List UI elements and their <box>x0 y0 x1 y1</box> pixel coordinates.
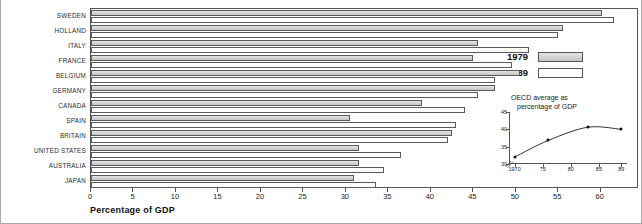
x-tick-label: 30 <box>341 192 349 201</box>
bar-holland-1979 <box>91 25 563 31</box>
bar-germany-1979 <box>91 85 495 91</box>
category-label-canada: CANADA <box>58 102 86 109</box>
bar-sweden-1979 <box>91 10 602 16</box>
bar-holland-1989 <box>91 32 558 38</box>
inset-y-tick-label: 40 <box>501 126 507 132</box>
x-tick-label: 35 <box>383 192 391 201</box>
category-label-belgium: BELGIUM <box>56 72 86 79</box>
bar-spain-1979 <box>91 115 350 121</box>
bar-france-1989 <box>91 62 512 68</box>
bar-australia-1979 <box>91 160 359 166</box>
inset-x-tick-label: 75 <box>540 166 546 172</box>
category-label-holland: HOLLAND <box>55 27 87 34</box>
bar-belgium-1989 <box>91 77 495 83</box>
inset-title-line1: OECD average as <box>511 94 568 101</box>
x-tick-label: 5 <box>130 192 134 201</box>
x-axis-title: Percentage of GDP <box>90 205 175 215</box>
inset-y-tick-label: 45 <box>501 109 507 115</box>
inset-title: OECD average as percentage of GDP <box>511 94 577 111</box>
category-label-britain: BRITAIN <box>60 132 86 139</box>
inset-x-tick-label: 1970 <box>508 166 520 172</box>
bar-sweden-1989 <box>91 17 614 23</box>
inset-y-tick-label: 30 <box>501 161 507 167</box>
inset-x-tick-label: 89 <box>618 166 624 172</box>
inset-line-path <box>509 112 627 164</box>
legend: 1979 1989 <box>507 50 583 82</box>
inset-data-point <box>586 126 589 129</box>
bar-italy-1979 <box>91 40 478 46</box>
bar-france-1979 <box>91 55 473 61</box>
bar-australia-1989 <box>91 167 384 173</box>
bar-germany-1989 <box>91 92 478 98</box>
bar-spain-1989 <box>91 122 456 128</box>
chart-figure: SWEDENHOLLANDITALYFRANCEBELGIUMGERMANYCA… <box>0 0 642 224</box>
inset-x-tick-label: 85 <box>596 166 602 172</box>
category-label-australia: AUSTRALIA <box>49 162 86 169</box>
legend-swatch-1979 <box>538 52 583 62</box>
x-tick-label: 15 <box>213 192 221 201</box>
category-label-japan: JAPAN <box>65 177 86 184</box>
inset-data-point <box>620 128 623 131</box>
inset-y-tick-label: 35 <box>501 144 507 150</box>
bar-canada-1979 <box>91 100 422 106</box>
inset-x-tick-label: 80 <box>568 166 574 172</box>
bar-belgium-1979 <box>91 70 520 76</box>
category-axis-labels: SWEDENHOLLANDITALYFRANCEBELGIUMGERMANYCA… <box>1 8 86 188</box>
x-tick-label: 55 <box>553 192 561 201</box>
x-tick-label: 50 <box>511 192 519 201</box>
x-tick-label: 60 <box>596 192 604 201</box>
bar-britain-1979 <box>91 130 452 136</box>
x-tick-label: 20 <box>256 192 264 201</box>
x-tick-label: 10 <box>171 192 179 201</box>
inset-data-point <box>547 139 550 142</box>
inset-chart: OECD average as percentage of GDP 303540… <box>493 94 633 182</box>
inset-data-point <box>513 156 516 159</box>
category-label-france: FRANCE <box>59 57 86 64</box>
category-label-united-states: UNITED STATES <box>34 147 86 154</box>
bar-united-states-1989 <box>91 152 401 158</box>
bar-italy-1989 <box>91 47 529 53</box>
bar-japan-1989 <box>91 182 376 188</box>
bar-britain-1989 <box>91 137 448 143</box>
x-axis: 051015202530354045505560 <box>90 188 638 206</box>
x-tick-label: 40 <box>426 192 434 201</box>
x-tick-label: 0 <box>88 192 92 201</box>
inset-title-line2: percentage of GDP <box>511 103 577 112</box>
inset-plot-area: 30354045197075808589 <box>509 112 627 164</box>
x-tick-label: 25 <box>298 192 306 201</box>
category-label-spain: SPAIN <box>66 117 86 124</box>
bar-japan-1979 <box>91 175 354 181</box>
legend-swatch-1989 <box>538 68 583 78</box>
category-label-sweden: SWEDEN <box>57 12 86 19</box>
bar-canada-1989 <box>91 107 465 113</box>
category-label-italy: ITALY <box>68 42 86 49</box>
category-label-germany: GERMANY <box>52 87 86 94</box>
x-tick-label: 45 <box>468 192 476 201</box>
bar-united-states-1979 <box>91 145 359 151</box>
